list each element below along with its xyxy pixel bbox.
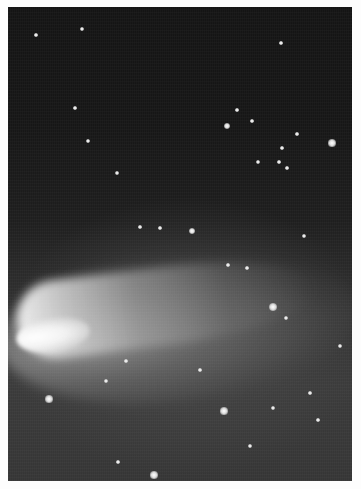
photo-border — [0, 0, 361, 489]
comet-photograph — [8, 7, 352, 481]
film-grain — [8, 7, 352, 481]
